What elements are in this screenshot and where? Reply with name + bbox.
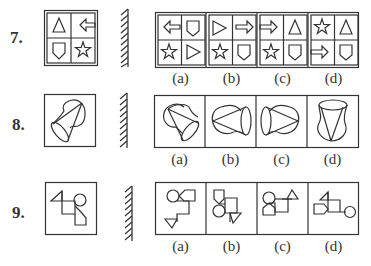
option-8b-label[interactable]: (b) (205, 151, 256, 168)
option-7a-label[interactable]: (a) (155, 70, 206, 87)
option-9a (165, 190, 195, 228)
option-9c (263, 190, 298, 215)
option-9a-label[interactable]: (a) (155, 238, 206, 255)
option-8b (212, 105, 251, 135)
question-9-figure (45, 182, 97, 235)
option-8d-label[interactable]: (d) (307, 151, 358, 168)
option-9b (213, 190, 241, 223)
option-7d (311, 15, 358, 65)
left-arrow-icon (80, 19, 95, 31)
option-9d-label[interactable]: (d) (308, 238, 359, 255)
question-number-7: 7. (10, 28, 23, 48)
question-number-8: 8. (12, 115, 25, 135)
question-7-figure (44, 10, 98, 66)
option-7d-label[interactable]: (d) (308, 70, 359, 87)
option-8d (318, 100, 347, 141)
option-9d (314, 192, 356, 218)
option-7b (209, 15, 256, 65)
question-7-options (155, 12, 359, 68)
mirror-line-icon (121, 9, 129, 67)
option-8a (164, 104, 202, 143)
option-7a (158, 15, 205, 65)
question-8-options (154, 95, 359, 148)
option-9b-label[interactable]: (b) (206, 238, 257, 255)
option-7c-label[interactable]: (c) (257, 70, 308, 87)
option-7c (260, 15, 307, 65)
option-8a-label[interactable]: (a) (154, 151, 205, 168)
option-7b-label[interactable]: (b) (206, 70, 257, 87)
triangle-icon (53, 18, 65, 32)
mirror-line-icon (120, 93, 128, 148)
question-9-options (155, 182, 359, 235)
option-8c-label[interactable]: (c) (256, 151, 307, 168)
option-8c (261, 105, 299, 135)
question-number-9: 9. (12, 203, 25, 223)
mirror-line-icon (125, 186, 133, 241)
option-9c-label[interactable]: (c) (257, 238, 308, 255)
star-icon (76, 42, 91, 56)
shield-icon (53, 43, 65, 59)
question-8-figure (44, 94, 96, 147)
